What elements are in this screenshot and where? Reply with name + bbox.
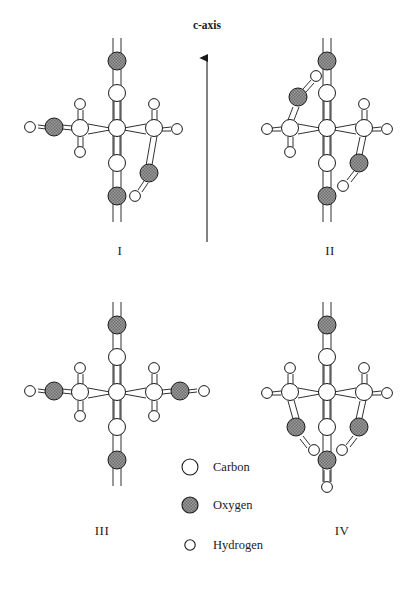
bond-stick [78,401,83,411]
atom-hydrogen [262,124,273,135]
atom-oxygen [318,451,336,469]
atom-carbon [72,120,89,137]
bond-stick [362,374,367,384]
bond-stick [324,136,330,155]
bond-stick [324,400,330,419]
atom-carbon [356,384,373,401]
bond-stick [152,110,157,120]
atom-carbon [282,120,299,137]
atom-hydrogen [311,71,322,82]
c-axis-label: c-axis [172,19,242,31]
oxygen-swatch-icon [182,497,198,513]
bond-stick [372,391,381,395]
bond-stick [162,127,171,131]
bond-stick [356,136,366,156]
atom-carbon [109,120,126,137]
bond-stick [372,127,381,131]
atom-oxygen [318,316,336,334]
bond-stick [88,124,110,134]
atom-carbon [109,155,126,172]
atom-carbon [109,384,126,401]
atom-hydrogen [75,411,86,422]
bond-stick [272,127,281,131]
molecular-structure-figure [0,0,417,589]
atom-hydrogen [75,363,86,374]
bond-stick [62,389,72,394]
bond-stick [146,136,157,166]
atom-oxygen [108,52,126,70]
atom-oxygen [171,382,189,400]
atom-carbon [109,85,126,102]
bond-stick [78,374,83,384]
bond-stick [300,436,310,448]
legend-label-oxygen: Oxygen [213,498,253,513]
bond-stick [62,125,72,130]
atom-oxygen [108,316,126,334]
atom-hydrogen [172,124,183,135]
atom-hydrogen [359,99,370,110]
bond-stick [362,110,367,120]
bond-stick [124,388,146,398]
structure-label-II: II [300,243,360,259]
atom-carbon [319,120,336,137]
atom-oxygen [45,382,63,400]
bond-stick [288,107,299,120]
atom-hydrogen [382,388,393,399]
atom-oxygen [287,418,305,436]
atom-carbon [109,419,126,436]
bond-stick [346,436,357,447]
atom-hydrogen [149,363,160,374]
bond-stick [324,101,330,120]
bond-stick [114,136,120,155]
structure-I [25,38,183,222]
bond-stick [88,388,110,398]
bond-stick [138,181,148,192]
atom-carbon [319,85,336,102]
atom-oxygen [45,118,63,136]
bond-stick [78,137,83,147]
bond-stick [356,400,366,419]
bond-stick [298,124,320,134]
structure-label-I: I [90,243,150,259]
bond-stick [324,365,330,384]
bond-stick [114,400,120,419]
bond-stick [288,400,299,419]
atom-hydrogen [338,181,349,192]
atom-carbon [72,384,89,401]
atom-hydrogen [285,147,296,158]
structure-label-III: III [72,523,132,539]
bond-stick [272,391,281,395]
structure-label-IV: IV [312,523,372,539]
carbon-swatch-icon [182,459,198,475]
bond-stick [288,137,293,147]
atom-carbon [319,419,336,436]
structure-IV [262,302,393,492]
atom-carbon [319,349,336,366]
atom-oxygen [350,154,368,172]
atom-hydrogen [25,386,36,397]
atom-hydrogen [199,386,210,397]
atom-hydrogen [262,388,273,399]
structure-III [25,302,210,486]
atom-carbon [146,384,163,401]
atom-oxygen [350,418,368,436]
hydrogen-swatch-icon [185,540,195,550]
legend-label-hydrogen: Hydrogen [213,538,263,553]
atom-hydrogen [309,445,320,456]
bond-stick [288,374,293,384]
atom-hydrogen [359,363,370,374]
atom-hydrogen [75,147,86,158]
bond-stick [334,388,356,398]
bond-stick [114,101,120,120]
atom-hydrogen [130,191,141,202]
atom-hydrogen [382,124,393,135]
atom-hydrogen [149,99,160,110]
atom-carbon [146,120,163,137]
bond-stick [334,124,356,134]
atom-oxygen [140,164,158,182]
atom-oxygen [318,52,336,70]
bond-stick [298,388,320,398]
atom-carbon [109,349,126,366]
bond-stick [114,365,120,384]
bond-stick [162,389,172,394]
